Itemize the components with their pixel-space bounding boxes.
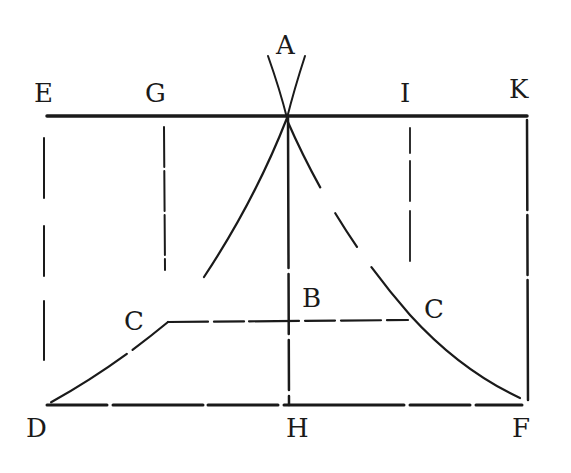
curve-right [287, 120, 520, 398]
label-K: K [509, 74, 529, 104]
label-H: H [286, 413, 309, 443]
label-B: B [302, 283, 321, 313]
label-E: E [34, 78, 53, 108]
label-C-right: C [424, 294, 444, 324]
curve-left-lower [48, 322, 168, 404]
cusp-A-left [268, 56, 287, 118]
line-KF [527, 120, 528, 405]
line-G-vertical [164, 127, 165, 270]
line-CC [168, 320, 408, 322]
label-D: D [26, 413, 47, 443]
curve-left-upper [204, 118, 287, 277]
label-G: G [145, 78, 166, 108]
label-A: A [275, 30, 296, 60]
label-C-left: C [124, 306, 144, 336]
geometry-figure: A E G I K B C C D H F [0, 0, 571, 473]
label-F: F [512, 413, 530, 443]
line-AH [288, 118, 289, 405]
cusp-A-right [287, 56, 305, 118]
label-I: I [400, 78, 410, 108]
